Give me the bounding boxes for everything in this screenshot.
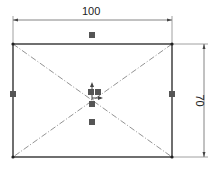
sketch-canvas[interactable]: [0, 0, 214, 174]
coincident-square-icon: [95, 89, 101, 95]
horizontal-dimension-value[interactable]: 100: [82, 6, 100, 17]
construction-diagonals[interactable]: [13, 44, 172, 157]
origin-cluster[interactable]: [88, 82, 103, 107]
horizontal-relation-icon: [89, 119, 95, 125]
midpoint-markers[interactable]: [10, 32, 175, 125]
arrow-down-icon: [203, 152, 206, 157]
horizontal-relation-icon: [89, 32, 95, 38]
vertical-relation-icon: [10, 91, 16, 97]
arrow-left-icon: [13, 19, 18, 22]
vertical-dimension-value[interactable]: 70: [194, 94, 205, 106]
arrow-up-icon: [203, 44, 206, 49]
coincident-square-icon: [88, 89, 94, 95]
arrow-right-icon: [98, 96, 103, 100]
coincident-square-icon: [89, 101, 95, 107]
arrow-right-icon: [167, 19, 172, 22]
horizontal-dimension[interactable]: [13, 16, 172, 44]
vertical-relation-icon: [169, 91, 175, 97]
